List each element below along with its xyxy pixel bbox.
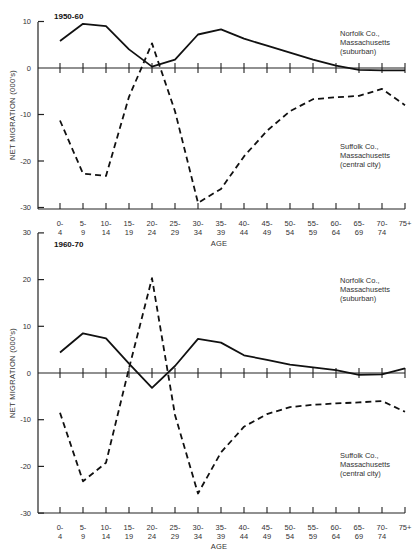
x-tick-label: 19 (125, 228, 133, 237)
x-tick-label: 20- (147, 219, 158, 228)
chart-panel-1960-70: 1960-70 3020100-10-20-30 0-45-910-1415-1… (8, 228, 412, 551)
x-tick-label: 74 (378, 532, 386, 541)
x-tick-label: 9 (81, 532, 85, 541)
x-tick-label: 60- (331, 523, 342, 532)
norfolk-line (60, 333, 405, 388)
x-tick-label: 44 (240, 228, 248, 237)
x-tick-label: 54 (286, 532, 294, 541)
x-tick-label: 35- (216, 523, 227, 532)
x-tick-label: 75+ (399, 523, 412, 532)
x-tick-label: 20- (147, 523, 158, 532)
y-tick-label: -30 (20, 509, 31, 518)
legend-label: Suffolk Co., (340, 451, 379, 460)
y-axis-title: NET MIGRATION (000's) (8, 70, 17, 160)
legend-suffolk: Suffolk Co.,Massachusetts(central city) (340, 142, 390, 169)
x-tick-label: 65- (354, 219, 365, 228)
legend-label: Norfolk Co., (340, 276, 380, 285)
y-tick-label: -10 (20, 110, 31, 119)
x-tick-label: 19 (125, 532, 133, 541)
x-tick-label: 59 (309, 228, 317, 237)
x-tick-label: 30- (193, 523, 204, 532)
x-tick-label: 35- (216, 219, 227, 228)
x-tick-label: 5- (80, 219, 87, 228)
x-tick-label: 40- (239, 219, 250, 228)
x-tick-label: 24 (148, 228, 156, 237)
legend-label: (suburban) (340, 294, 377, 303)
x-tick-label: 65- (354, 523, 365, 532)
y-tick-label: 20 (23, 275, 31, 284)
x-tick-label: 39 (217, 532, 225, 541)
y-axis-title: NET MIGRATION (000's) (8, 328, 17, 418)
x-tick-label: 44 (240, 532, 248, 541)
net-migration-figure: 1950-60 100-10-20-30 0-45-910-1415-1920-… (0, 0, 420, 560)
x-tick-label: 15- (124, 219, 135, 228)
x-tick-label: 4 (58, 532, 62, 541)
x-tick-label: 25- (170, 219, 181, 228)
x-tick-label: 75+ (399, 219, 412, 228)
legend-label: (suburban) (340, 47, 377, 56)
y-tick-label: 0 (27, 64, 31, 73)
legend-label: Suffolk Co., (340, 142, 379, 151)
y-tick-label: -10 (20, 415, 31, 424)
x-tick-label: 10- (101, 219, 112, 228)
legend-label: (central city) (340, 160, 381, 169)
x-tick-label: 69 (355, 532, 363, 541)
x-tick-label: 55- (308, 219, 319, 228)
x-tick-label: 55- (308, 523, 319, 532)
x-tick-label: 0- (57, 219, 64, 228)
legend-label: Norfolk Co., (340, 29, 380, 38)
x-tick-label: 45- (262, 219, 273, 228)
x-tick-label: 25- (170, 523, 181, 532)
x-tick-label: 49 (263, 532, 271, 541)
y-tick-label: 10 (23, 17, 31, 26)
panel-title: 1960-70 (54, 240, 84, 249)
x-tick-label: 34 (194, 532, 202, 541)
x-tick-label: 64 (332, 228, 340, 237)
x-tick-label: 50- (285, 219, 296, 228)
legend-label: Massachusetts (340, 460, 390, 469)
x-axis-title: AGE (211, 239, 228, 248)
x-tick-label: 39 (217, 228, 225, 237)
x-tick-label: 54 (286, 228, 294, 237)
legend-label: Massachusetts (340, 285, 390, 294)
y-tick-label: 10 (23, 322, 31, 331)
x-tick-label: 5- (80, 523, 87, 532)
y-tick-label: -20 (20, 157, 31, 166)
x-tick-label: 0- (57, 523, 64, 532)
y-tick-label: 0 (27, 369, 31, 378)
y-axis: 100-10-20-30 (20, 17, 44, 212)
legend-label: Massachusetts (340, 38, 390, 47)
legend-norfolk: Norfolk Co.,Massachusetts(suburban) (340, 29, 390, 56)
legend-label: (central city) (340, 469, 381, 478)
x-tick-label: 59 (309, 532, 317, 541)
x-tick-label: 34 (194, 228, 202, 237)
x-tick-label: 74 (378, 228, 386, 237)
x-tick-label: 64 (332, 532, 340, 541)
x-tick-label: 14 (102, 532, 110, 541)
x-tick-label: 50- (285, 523, 296, 532)
x-tick-label: 24 (148, 532, 156, 541)
legend-label: Massachusetts (340, 151, 390, 160)
legend-norfolk: Norfolk Co.,Massachusetts(suburban) (340, 276, 390, 303)
x-tick-label: 29 (171, 532, 179, 541)
chart-panel-1950-60: 1950-60 100-10-20-30 0-45-910-1415-1920-… (8, 12, 412, 248)
x-tick-label: 69 (355, 228, 363, 237)
x-tick-label: 10- (101, 523, 112, 532)
x-tick-label: 4 (58, 228, 62, 237)
y-tick-label: -30 (20, 203, 31, 212)
x-tick-label: 40- (239, 523, 250, 532)
x-axis-title: AGE (211, 542, 228, 551)
x-tick-label: 60- (331, 219, 342, 228)
x-tick-label: 9 (81, 228, 85, 237)
x-tick-label: 14 (102, 228, 110, 237)
x-tick-label: 49 (263, 228, 271, 237)
x-tick-label: 29 (171, 228, 179, 237)
panel-title: 1950-60 (54, 12, 84, 21)
x-tick-label: 45- (262, 523, 273, 532)
legend-suffolk: Suffolk Co.,Massachusetts(central city) (340, 451, 390, 478)
suffolk-line (60, 43, 405, 203)
x-tick-label: 15- (124, 523, 135, 532)
x-tick-label: 70- (377, 219, 388, 228)
x-tick-label: 70- (377, 523, 388, 532)
y-tick-label: 30 (23, 228, 31, 237)
